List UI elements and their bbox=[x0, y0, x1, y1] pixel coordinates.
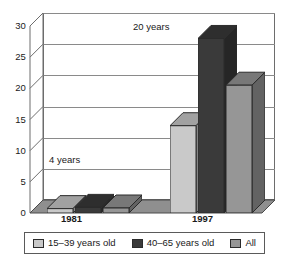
bar-chart: 051015202530 1981 1997 4 years 20 years … bbox=[0, 0, 289, 262]
x-axis-label-1997: 1997 bbox=[192, 214, 213, 224]
legend-label: 40–65 years old bbox=[147, 238, 215, 248]
y-axis-tick-label: 10 bbox=[2, 146, 26, 156]
legend-swatch-icon bbox=[230, 239, 241, 248]
legend-item-15-39: 15–39 years old bbox=[33, 238, 116, 248]
y-axis-tick-label: 30 bbox=[2, 21, 26, 31]
plot-area: 051015202530 1981 1997 4 years 20 years bbox=[0, 0, 289, 228]
bar-1997-series-2 bbox=[226, 0, 265, 213]
annotation-20-years: 20 years bbox=[133, 22, 169, 32]
x-axis-label-1981: 1981 bbox=[61, 214, 82, 224]
y-axis-tick-label: 25 bbox=[2, 52, 26, 62]
legend-item-all: All bbox=[230, 238, 256, 248]
legend-swatch-icon bbox=[33, 239, 44, 248]
legend-label: All bbox=[245, 238, 256, 248]
y-axis-tick-label: 15 bbox=[2, 115, 26, 125]
legend-swatch-icon bbox=[132, 239, 143, 248]
y-axis-tick-label: 5 bbox=[2, 177, 26, 187]
legend-item-40-65: 40–65 years old bbox=[132, 238, 215, 248]
annotation-4-years: 4 years bbox=[49, 155, 80, 165]
y-axis-tick-label: 20 bbox=[2, 83, 26, 93]
legend-label: 15–39 years old bbox=[48, 238, 116, 248]
chart-legend: 15–39 years old 40–65 years old All bbox=[24, 232, 265, 254]
y-axis-tick-label: 0 bbox=[2, 208, 26, 218]
